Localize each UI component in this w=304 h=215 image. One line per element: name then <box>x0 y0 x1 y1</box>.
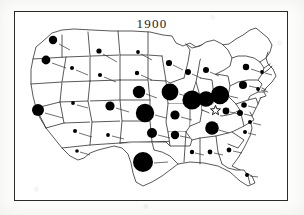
data-symbol-circle: CA <box>32 104 44 116</box>
data-symbol-circle: MN <box>166 60 172 66</box>
us-map-svg: WAORMTIDWYCANVUTCOAZNMNDSDNEKSOKTXMNIAMO… <box>0 0 304 215</box>
data-symbol-circle: PA <box>239 81 247 89</box>
data-symbol-circle: KY <box>223 108 230 115</box>
data-symbol-circle: NJ <box>256 87 260 91</box>
state-outlines-group <box>31 28 276 186</box>
data-symbol-circle: NC <box>248 120 252 124</box>
data-symbol-circle: OH <box>211 86 229 104</box>
data-symbol-circle: AL <box>208 150 213 155</box>
data-symbol-circle: VA <box>241 102 247 108</box>
data-symbol-circle: NY <box>243 64 249 70</box>
data-symbol-circle: AL-N <box>205 121 219 135</box>
data-symbol-circle: SC <box>243 130 247 134</box>
data-symbol-circle: UT <box>73 129 77 133</box>
data-symbol-circle: FL <box>245 173 249 177</box>
data-symbol-circle: NEW-ENG <box>260 70 264 74</box>
data-symbol-circle: OR <box>42 56 51 65</box>
data-symbol-circle: MT <box>96 48 101 53</box>
star-marker-group <box>209 104 222 117</box>
data-symbol-circle: AR <box>171 131 179 139</box>
data-symbol-circle: NV <box>71 101 75 105</box>
figure-container: WAORMTIDWYCANVUTCOAZNMNDSDNEKSOKTXMNIAMO… <box>0 0 304 215</box>
data-symbol-circle: NM <box>106 133 110 137</box>
national-outline <box>31 28 276 186</box>
data-symbol-circle: ID <box>70 66 74 70</box>
data-symbol-circle: AZ <box>75 149 79 153</box>
data-symbol-circle: WA <box>49 36 57 44</box>
data-symbol-circle: KS <box>136 104 154 122</box>
data-symbol-circle: CO <box>105 101 114 110</box>
leader-line <box>253 123 261 125</box>
data-symbol-circle: WY <box>98 73 102 77</box>
data-symbol-circle: WI <box>185 69 191 75</box>
data-symbol-circle: MO <box>170 110 179 119</box>
data-symbol-circle: ND <box>136 50 140 54</box>
data-symbol-circle: TX <box>133 152 153 172</box>
data-symbol-circle: SD <box>135 71 139 75</box>
data-symbol-circle: NE <box>133 86 145 98</box>
data-symbol-circle: OK <box>147 128 157 138</box>
data-symbol-circle: MS <box>190 150 194 154</box>
data-symbol-circle: GA <box>227 148 232 153</box>
data-symbol-circle: TN <box>237 110 243 116</box>
data-symbol-circle: IA <box>162 84 179 101</box>
data-symbol-circle: MI <box>203 67 209 73</box>
